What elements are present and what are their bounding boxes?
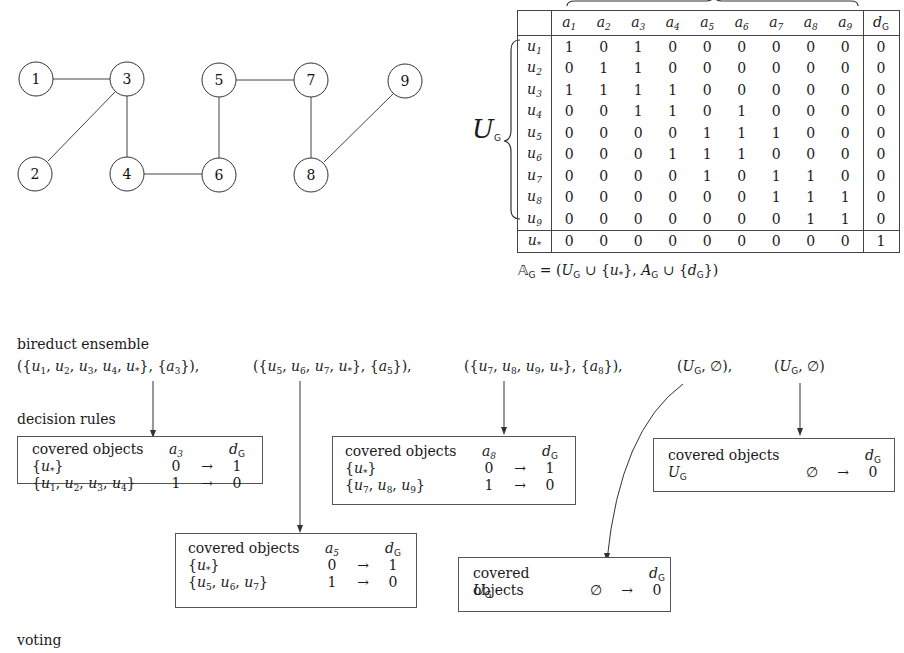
svg-text:6: 6 [215,167,224,183]
table-cell: 1 [794,208,829,230]
ensemble-label: bireduct ensemble [17,336,149,352]
table-cell: 0 [690,79,725,101]
table-cell: 0 [690,101,725,123]
decision-cell: 0 [863,101,899,123]
node-2: 2 [18,157,52,191]
row-header: u4 [518,101,552,123]
table-cell: 1 [621,58,656,80]
table-cell: 1 [621,79,656,101]
table-cell: 0 [621,165,656,187]
decision-cell: 0 [863,58,899,80]
table-cell: 0 [725,208,760,230]
svg-text:4: 4 [123,166,132,182]
table-row: u60001110000 [518,144,900,166]
row-header: u3 [518,79,552,101]
edge-8-9 [324,94,393,162]
decision-table: a1 a2 a3 a4 a5 a6 a7 a8 a9 dG u110100000… [517,10,900,253]
table-row: u90000000110 [518,208,900,230]
table-cell: 1 [725,122,760,144]
table-cell: 0 [621,187,656,209]
row-header: u* [518,230,552,253]
row-header: u5 [518,122,552,144]
table-cell: 0 [794,101,829,123]
column-header: a2 [587,11,622,36]
rule-box-empty-1: covered objectsdG UG∅→0 [653,438,895,492]
node-7: 7 [294,63,328,97]
node-3: 3 [110,62,144,96]
table-cell: 0 [725,187,760,209]
table-cell: 1 [690,144,725,166]
table-cell: 1 [759,122,794,144]
table-cell: 0 [725,58,760,80]
table-cell: 0 [621,208,656,230]
table-cell: 1 [656,144,691,166]
arrow-2 [297,381,303,533]
arrow-1 [150,381,156,438]
table-cell: 0 [725,79,760,101]
table-cell: 0 [828,122,863,144]
table-cell: 0 [587,122,622,144]
column-header: a8 [794,11,829,36]
table-cell: 1 [656,101,691,123]
table-cell: 0 [759,144,794,166]
table-cell: 0 [656,165,691,187]
row-header: u7 [518,165,552,187]
table-cell: 1 [552,79,587,101]
table-cell: 0 [794,122,829,144]
graph: 1 3 5 7 9 2 4 6 8 [0,0,460,220]
table-cell: 0 [794,144,829,166]
table-cell: 0 [690,58,725,80]
decision-cell: 0 [863,79,899,101]
table-cell: 0 [828,79,863,101]
table-cell: 0 [587,165,622,187]
table-cell: 0 [587,36,622,58]
decision-cell: 0 [863,36,899,58]
table-cell: 1 [552,36,587,58]
table-cell: 1 [759,187,794,209]
decision-cell: 0 [863,187,899,209]
node-4: 4 [110,157,144,191]
table-cell: 1 [828,187,863,209]
table-cell: 1 [794,165,829,187]
table-cell: 1 [621,101,656,123]
table-row: u20110000000 [518,58,900,80]
table-cell: 0 [759,79,794,101]
table-cell: 0 [759,101,794,123]
column-header: a4 [656,11,691,36]
table-cell: 0 [656,208,691,230]
table-cell: 0 [725,165,760,187]
node-6: 6 [202,158,236,192]
table-cell: 0 [621,230,656,253]
table-cell: 0 [828,165,863,187]
table-cell: 0 [552,101,587,123]
table-cell: 0 [552,230,587,253]
table-cell: 1 [690,165,725,187]
table-cell: 0 [587,144,622,166]
column-header: a3 [621,11,656,36]
decision-cell: 0 [863,122,899,144]
node-8: 8 [294,158,328,192]
column-header: a5 [690,11,725,36]
table-cell: 0 [587,208,622,230]
table-cell: 0 [828,101,863,123]
table-cell: 1 [587,79,622,101]
table-cell: 0 [552,208,587,230]
decision-header: dG [863,11,899,36]
table-cell: 0 [759,230,794,253]
edge-2-3 [48,92,115,161]
table-cell: 0 [552,187,587,209]
table-cell: 1 [725,144,760,166]
table-cell: 1 [587,58,622,80]
table-cell: 0 [794,79,829,101]
table-cell: 1 [621,36,656,58]
bireduct-2: ({u5, u6, u7, u*}, {a5}), [253,358,412,376]
table-cell: 0 [690,36,725,58]
table-cell: 0 [621,122,656,144]
table-caption: 𝔸G = (UG ∪ {u*}, AG ∪ {dG}) [518,262,718,280]
table-cell: 0 [794,36,829,58]
table-cell: 0 [587,230,622,253]
arrow-3 [501,381,507,435]
table-cell: 0 [621,144,656,166]
bireduct-3: ({u7, u8, u9, u*}, {a8}), [464,358,623,376]
table-row: u*0000000001 [518,230,900,253]
